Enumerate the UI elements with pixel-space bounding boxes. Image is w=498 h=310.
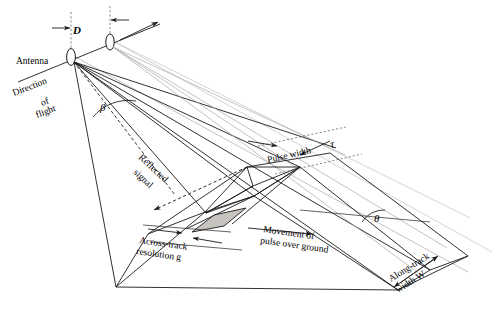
pulse-width-label: Pulse width τ (266, 137, 336, 165)
pulse-movement-label: Movement of pulse over ground (260, 224, 330, 254)
direction-of-flight-label: Direction of flight (11, 76, 57, 120)
direction-of-flight-line-1: Direction (11, 76, 48, 98)
beam-angle-label: β (99, 101, 106, 113)
depression-angle-label: θ (374, 212, 380, 224)
antenna-separation-label: D (72, 24, 81, 36)
direction-of-flight-line-3: flight (34, 103, 57, 120)
across-track-label: Across-track resolution g (136, 235, 189, 262)
radar-beam-antenna-1 (74, 62, 430, 290)
diagram-canvas: Antenna Direction of flight D β Reflecte… (0, 0, 498, 310)
resolution-cell (192, 208, 246, 232)
antenna-position-2 (106, 34, 114, 50)
sar-geometry-diagram: Antenna Direction of flight D β Reflecte… (0, 0, 498, 310)
antenna-label: Antenna (16, 56, 49, 66)
reflected-signal-label: Reflected signal (132, 152, 171, 190)
pulse-volume (186, 167, 300, 229)
